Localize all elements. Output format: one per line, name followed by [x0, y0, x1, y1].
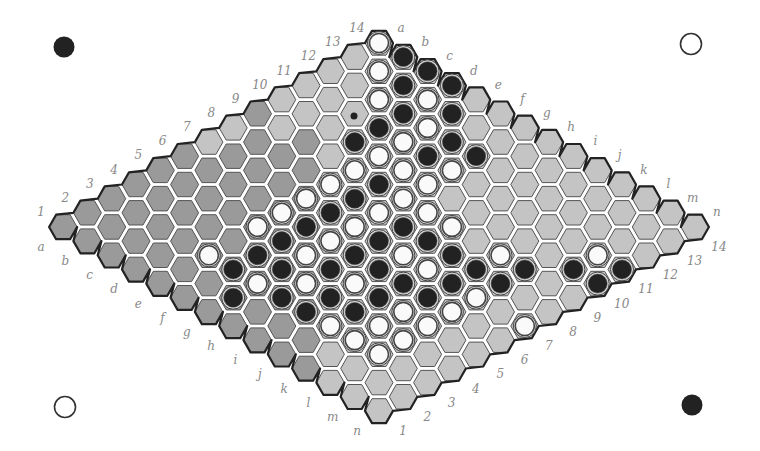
- hex-cell[interactable]: [316, 144, 344, 168]
- hex-cell[interactable]: [559, 201, 587, 225]
- hex-cell[interactable]: [487, 300, 515, 325]
- white-stone: [319, 173, 342, 196]
- hex-cell[interactable]: [487, 215, 515, 240]
- hex-cell[interactable]: [511, 172, 539, 196]
- column-label-e: e: [135, 297, 142, 311]
- hex-cell[interactable]: [195, 215, 223, 240]
- white-stone: [392, 300, 415, 323]
- row-label-14: 14: [711, 240, 726, 254]
- hex-cell[interactable]: [389, 356, 417, 381]
- row-label-10: 10: [614, 297, 630, 311]
- hex-cell[interactable]: [268, 144, 296, 168]
- hex-cell[interactable]: [316, 116, 344, 140]
- black-stone: [392, 216, 415, 239]
- hex-cell[interactable]: [292, 130, 320, 155]
- hex-cell[interactable]: [244, 130, 272, 155]
- hex-cell[interactable]: [414, 342, 442, 366]
- white-stone: [343, 215, 366, 238]
- hex-cell[interactable]: [341, 356, 369, 381]
- hex-cell[interactable]: [268, 314, 296, 338]
- hex-cell[interactable]: [511, 229, 539, 253]
- hex-cell[interactable]: [535, 158, 563, 183]
- hex-cell[interactable]: [462, 172, 490, 196]
- hex-cell[interactable]: [292, 158, 320, 183]
- black-stone: [343, 131, 366, 154]
- hex-cell[interactable]: [511, 201, 539, 225]
- white-stone: [416, 173, 439, 196]
- hex-cell[interactable]: [122, 201, 150, 225]
- hex-cell[interactable]: [219, 201, 247, 225]
- hex-cell[interactable]: [98, 215, 126, 240]
- white-stone: [586, 244, 609, 267]
- row-label-5: 5: [496, 367, 504, 381]
- hex-cell[interactable]: [584, 215, 612, 240]
- hex-cell[interactable]: [195, 271, 223, 296]
- hex-cell[interactable]: [462, 314, 490, 338]
- white-stone: [319, 315, 342, 338]
- hex-cell[interactable]: [487, 158, 515, 183]
- white-stone: [416, 88, 439, 111]
- column-label-g: g: [183, 325, 191, 339]
- hex-cell[interactable]: [438, 186, 466, 211]
- hex-cell[interactable]: [462, 201, 490, 225]
- hex-cell[interactable]: [316, 87, 344, 111]
- hex-cell[interactable]: [608, 201, 636, 225]
- hex-cell[interactable]: [462, 229, 490, 253]
- column-label-b: b: [421, 35, 429, 49]
- black-stone: [513, 258, 536, 281]
- white-stone: [368, 88, 391, 111]
- column-label-f: f: [159, 311, 167, 325]
- hex-cell[interactable]: [244, 186, 272, 211]
- hex-cell[interactable]: [438, 328, 466, 353]
- black-stone: [416, 286, 439, 309]
- hex-cell[interactable]: [608, 229, 636, 253]
- hex-cell[interactable]: [195, 186, 223, 211]
- hex-cell[interactable]: [462, 116, 490, 140]
- hex-cell[interactable]: [171, 172, 199, 196]
- hex-cell[interactable]: [219, 229, 247, 253]
- hex-cell[interactable]: [171, 201, 199, 225]
- hex-cell[interactable]: [268, 172, 296, 196]
- hex-cell[interactable]: [341, 73, 369, 98]
- white-stone: [513, 315, 536, 338]
- hex-cell[interactable]: [511, 144, 539, 168]
- hex-cell[interactable]: [122, 229, 150, 253]
- hex-cell[interactable]: [535, 243, 563, 268]
- hex-cell[interactable]: [535, 186, 563, 211]
- hex-cell[interactable]: [632, 215, 660, 240]
- hex-cell[interactable]: [171, 229, 199, 253]
- hex-cell[interactable]: [365, 370, 393, 394]
- hex-cell[interactable]: [219, 144, 247, 168]
- white-stone: [416, 201, 439, 224]
- hex-cell[interactable]: [511, 286, 539, 310]
- hex-cell[interactable]: [292, 102, 320, 127]
- column-label-e: e: [495, 78, 502, 92]
- hex-cell[interactable]: [146, 186, 174, 211]
- hex-cell[interactable]: [146, 215, 174, 240]
- hex-cell[interactable]: [584, 186, 612, 211]
- column-label-c: c: [446, 49, 453, 63]
- bottom-left-white-marker: [55, 397, 76, 418]
- hex-cell[interactable]: [146, 243, 174, 268]
- row-label-9: 9: [594, 311, 602, 325]
- hex-cell[interactable]: [487, 130, 515, 155]
- hex-cell[interactable]: [487, 186, 515, 211]
- hex-cell[interactable]: [559, 229, 587, 253]
- hex-cell[interactable]: [535, 271, 563, 296]
- black-stone: [319, 286, 342, 309]
- black-stone: [465, 258, 488, 281]
- hex-cell[interactable]: [559, 172, 587, 196]
- hex-cell[interactable]: [171, 257, 199, 281]
- black-stone: [465, 145, 488, 168]
- hex-cell[interactable]: [195, 158, 223, 183]
- hex-cell[interactable]: [244, 158, 272, 183]
- hex-cell[interactable]: [219, 172, 247, 196]
- column-label-a: a: [38, 240, 45, 254]
- hex-cell[interactable]: [316, 342, 344, 366]
- row-label-4: 4: [471, 382, 480, 396]
- hex-cell[interactable]: [292, 328, 320, 353]
- top-left-black-marker: [54, 37, 75, 58]
- hex-cell[interactable]: [268, 116, 296, 140]
- hex-cell[interactable]: [535, 215, 563, 240]
- hex-cell[interactable]: [244, 300, 272, 325]
